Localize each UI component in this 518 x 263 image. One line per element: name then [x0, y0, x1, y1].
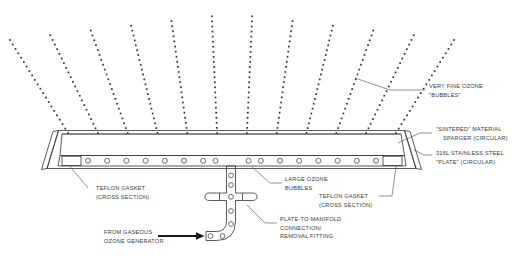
bubble-dot: [56, 48, 58, 50]
plate-gas-hole: [124, 158, 129, 163]
bubble-dot: [246, 127, 248, 129]
bubble-dot: [283, 81, 285, 83]
bubble-dot: [12, 44, 14, 46]
plate-gas-hole: [213, 158, 218, 163]
plate-gas-hole: [297, 158, 302, 163]
bubble-dot: [97, 49, 99, 51]
bubble-dot: [215, 102, 217, 104]
bubble-dot: [171, 25, 173, 27]
manifold-bolt-holes: [229, 173, 234, 213]
bubble-dot: [140, 64, 142, 66]
bubble-dot: [291, 25, 293, 27]
sintered-sparger-layer: [60, 134, 405, 156]
bubble-dot: [404, 53, 406, 55]
bubble-dot: [172, 30, 174, 32]
bubble-dot: [178, 71, 180, 73]
bubble-dot: [248, 92, 250, 94]
callout-manifold-fitting-line2: CONNECTION/: [280, 225, 322, 231]
bubble-dot: [70, 76, 72, 78]
bubble-dot: [171, 20, 173, 22]
bubble-dot: [184, 117, 186, 119]
bubble-dot: [412, 106, 414, 108]
bubble-dot: [181, 91, 183, 93]
bubble-dot: [249, 66, 251, 68]
bubble-dot: [279, 107, 281, 109]
bubble-dot: [141, 69, 143, 71]
plate-gas-hole: [316, 158, 321, 163]
bubble-dot: [99, 54, 101, 56]
bubble-dot: [360, 64, 362, 66]
bubble-dot: [310, 113, 312, 115]
bubble-dot: [183, 107, 185, 109]
bubble-dot: [417, 97, 419, 99]
bubble-dot: [74, 86, 76, 88]
bubble-dot: [321, 69, 323, 71]
bubble-dot: [411, 39, 413, 41]
bubble-dot: [365, 49, 367, 51]
bubble-dot: [318, 83, 320, 85]
bubble-dot: [290, 30, 292, 32]
gas-manifold-pipe: [206, 166, 243, 241]
bubble-dot: [212, 46, 214, 48]
bubble-dot: [17, 52, 19, 54]
bubble-dot: [9, 39, 11, 41]
bubble-dot: [250, 46, 252, 48]
bubble-dot: [331, 30, 333, 32]
bubble-dot: [106, 74, 108, 76]
manifold-bolt-hole: [229, 183, 234, 188]
bubble-dot: [282, 91, 284, 93]
bubble-dot: [114, 98, 116, 100]
bubble-dot: [369, 39, 371, 41]
bubble-dot: [307, 127, 309, 129]
bubble-dot: [174, 46, 176, 48]
bubble-dot: [285, 71, 287, 73]
callout-manifold-fitting-line1: PLATE-TO-MANIFOLD: [280, 216, 341, 222]
bubble-dot: [322, 64, 324, 66]
bubble-dot: [383, 95, 385, 97]
bubble-dot: [420, 92, 422, 94]
plate-gas-hole: [162, 158, 167, 163]
callout-gas-inlet-line1: FROM GASEOUS: [104, 229, 152, 235]
bubble-dot: [442, 57, 444, 59]
plate-gas-hole: [182, 158, 187, 163]
bubble-dot: [212, 31, 214, 33]
bubble-dot: [251, 26, 253, 28]
diagram-canvas: VERY FINE OZONE "BUBBLES" "SINTERED" MAT…: [0, 0, 518, 263]
bubble-dot: [367, 44, 369, 46]
plate-plenum-cavity: [58, 156, 406, 167]
bubble-dot: [179, 81, 181, 83]
bubble-dot: [281, 97, 283, 99]
bubble-dot: [180, 86, 182, 88]
bubble-dot: [453, 39, 455, 41]
bubble-dot: [353, 83, 355, 85]
bubble-dot: [350, 93, 352, 95]
callout-manifold-fitting-line3: REMOVAL FITTING: [280, 233, 333, 239]
bubble-dot: [143, 79, 145, 81]
bubble-dot: [61, 58, 63, 60]
bubble-dot: [211, 21, 213, 23]
bubble-dot: [133, 35, 135, 37]
bubble-dot: [247, 107, 249, 109]
plate-gas-hole: [143, 158, 148, 163]
callout-steel-plate-line1: 316L STAINLESS STEEL: [436, 150, 504, 156]
bubble-dot: [186, 127, 188, 129]
bubble-dot: [213, 56, 215, 58]
bubble-dot: [434, 70, 436, 72]
bubble-dot: [247, 102, 249, 104]
bubble-dot: [403, 119, 405, 121]
teflon-gasket-right: [383, 156, 402, 165]
bubble-dot: [113, 93, 115, 95]
bubble-dot: [320, 74, 322, 76]
bubble-dot: [324, 59, 326, 61]
bubble-dot: [250, 41, 252, 43]
bubble-dot: [216, 122, 218, 124]
bubble-dot: [48, 101, 50, 103]
bubble-dot: [388, 86, 390, 88]
elbow-bolt-hole: [220, 234, 225, 239]
bubble-dot: [250, 51, 252, 53]
bubble-dot: [249, 71, 251, 73]
bubble-dot: [212, 41, 214, 43]
callout-leader-lines: [70, 78, 432, 223]
callout-sintered-sparger-line2: SPARGER (CIRCULAR): [443, 135, 508, 141]
bubble-dot: [288, 46, 290, 48]
